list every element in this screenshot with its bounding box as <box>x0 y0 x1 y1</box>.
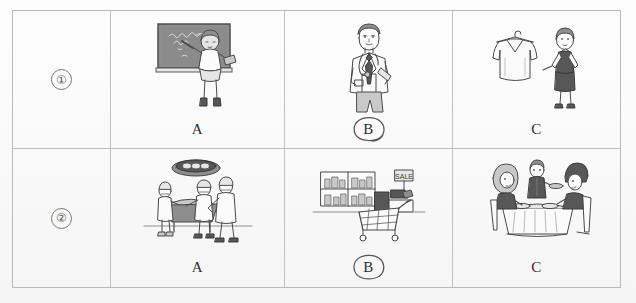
option-cell-1c[interactable]: C <box>453 11 620 149</box>
option-cell-1a[interactable]: A <box>111 11 285 149</box>
options-table: ① <box>12 10 621 288</box>
option-letter-1b: B <box>363 121 374 138</box>
option-label-wrap-2b: B <box>285 252 452 282</box>
option-label-wrap-1a: A <box>111 114 284 144</box>
circled-number-2: ② <box>51 208 72 229</box>
row-number-cell-1: ① <box>13 11 111 149</box>
illustration-doctor-with-stethoscope <box>329 18 409 114</box>
option-label-wrap-2a: A <box>111 252 284 282</box>
option-letter-1c: C <box>531 121 542 138</box>
option-letter-2b: B <box>363 259 374 276</box>
option-cell-1b[interactable]: B <box>285 11 453 149</box>
worksheet-page: ① <box>0 0 636 303</box>
illustration-shop-assistant-with-clothes-hanger <box>481 18 593 114</box>
option-cell-2b[interactable]: SALE <box>285 149 453 287</box>
illustration-supermarket-with-shopping-cart: SALE <box>307 156 431 252</box>
option-cell-2c[interactable]: C <box>453 149 620 287</box>
sale-sign-text: SALE <box>395 173 413 180</box>
circled-number-1: ① <box>51 69 72 90</box>
row-number-cell-2: ② <box>13 149 111 287</box>
option-label-wrap-1c: C <box>453 114 620 144</box>
option-letter-2a: A <box>192 259 203 276</box>
option-label-wrap-2c: C <box>453 252 620 282</box>
illustration-waiter-serving-couple-at-restaurant <box>477 156 597 252</box>
option-label-wrap-1b: B <box>285 114 452 144</box>
option-letter-1a: A <box>192 121 203 138</box>
option-cell-2a[interactable]: A <box>111 149 285 287</box>
option-letter-2c: C <box>531 259 542 276</box>
illustration-teacher-at-blackboard <box>144 18 252 114</box>
illustration-surgeons-in-operating-room <box>138 156 258 252</box>
